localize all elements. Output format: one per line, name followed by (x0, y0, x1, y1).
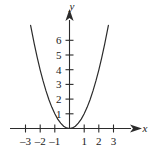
x-axis-tick-label: 3 (111, 135, 117, 147)
graph-figure: –3 –2 –1 1 2 3 1 2 3 4 5 6 x y (0, 0, 153, 152)
x-axis-arrowhead (130, 124, 142, 132)
x-axis-tick-label: 2 (96, 135, 102, 147)
y-axis-tick-label: 1 (56, 108, 62, 120)
y-axis-tick-label: 5 (56, 49, 62, 61)
x-axis-tick-label: –1 (48, 135, 60, 147)
y-axis-tick-label: 4 (56, 64, 62, 76)
y-axis-tick-label: 3 (56, 78, 62, 90)
x-axis-tick-label: 1 (81, 135, 87, 147)
coordinate-plane-plot: –3 –2 –1 1 2 3 1 2 3 4 5 6 x y (0, 0, 153, 152)
y-axis-tick-label: 6 (56, 34, 62, 46)
x-axis-tick-label: –2 (34, 135, 46, 147)
y-axis-label: y (69, 0, 75, 12)
x-axis-label: x (142, 122, 148, 134)
x-axis-tick-label: –3 (19, 135, 32, 147)
y-axis-tick-label: 2 (56, 93, 62, 105)
